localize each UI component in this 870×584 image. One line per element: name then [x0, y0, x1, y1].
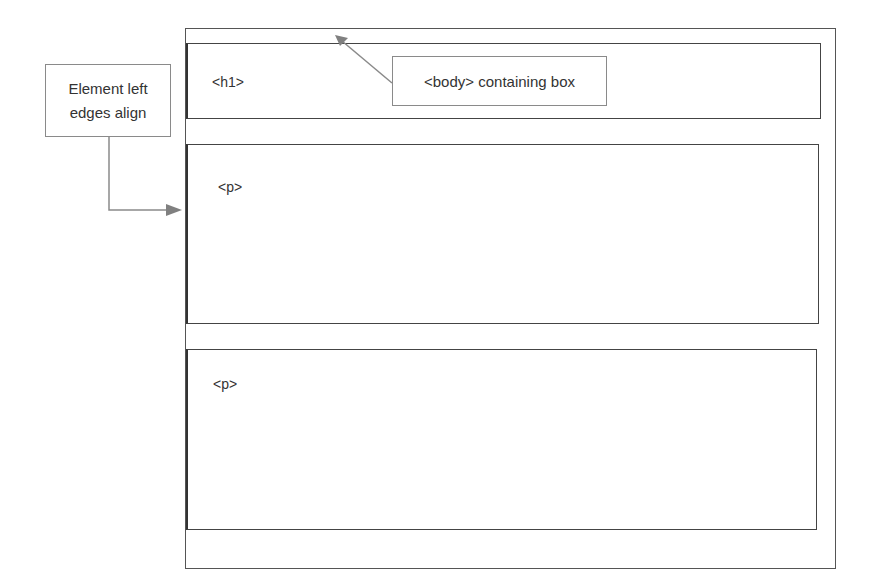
- left-edges-callout-text: Element left edges align: [50, 77, 166, 125]
- p-label-2: <p>: [213, 376, 237, 392]
- p-element-box-1: <p>: [186, 144, 819, 324]
- body-container-callout: <body> containing box: [392, 56, 607, 106]
- p-element-box-2: <p>: [186, 349, 817, 530]
- p-label-1: <p>: [218, 179, 242, 195]
- left-edges-arrow-icon: [109, 137, 182, 216]
- left-edges-callout: Element left edges align: [45, 64, 171, 137]
- h1-label: <h1>: [212, 74, 244, 90]
- body-container-callout-text: <body> containing box: [424, 73, 575, 90]
